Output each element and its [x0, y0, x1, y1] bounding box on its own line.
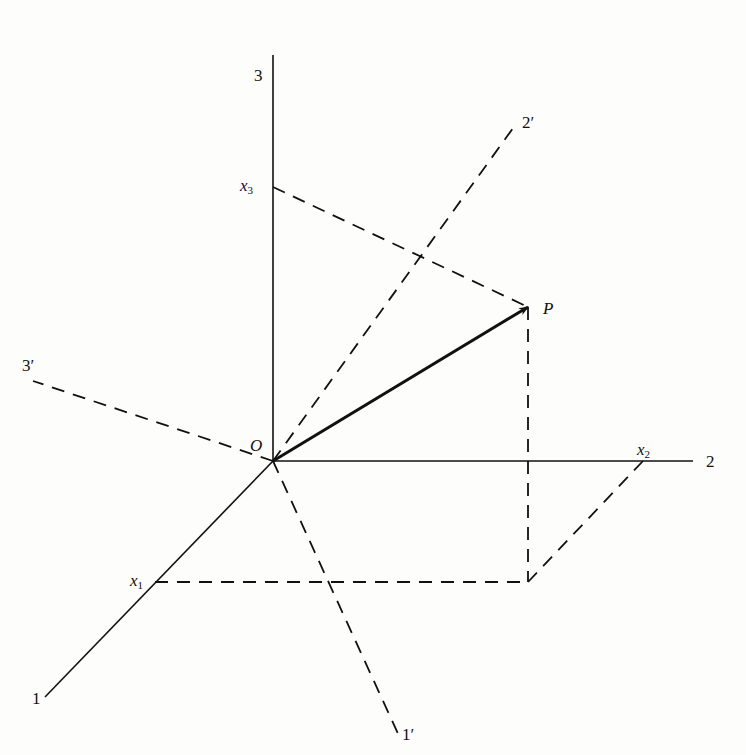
- x3-to-P: [273, 187, 528, 307]
- axis-1-label: 1: [32, 690, 41, 707]
- axis-1: [45, 461, 273, 697]
- x1-label: x1: [130, 572, 143, 591]
- axis-3-label: 3: [254, 67, 263, 84]
- axis-1-prime: [273, 461, 400, 738]
- vector-OP-arrow: [273, 307, 528, 461]
- point-P-label: P: [543, 300, 553, 317]
- coordinate-rotation-diagram: [0, 0, 746, 755]
- axis-2-prime-label: 2′: [522, 114, 534, 131]
- x2-subscript: 2: [645, 448, 651, 460]
- axis-3-prime-label: 3′: [22, 357, 34, 374]
- rotated-axes: [33, 124, 516, 738]
- x1-var: x: [130, 571, 138, 590]
- x3-var: x: [240, 176, 248, 195]
- axis-1-prime-label: 1′: [402, 726, 414, 743]
- original-axes: [45, 55, 693, 697]
- position-vector-OP: [273, 307, 528, 461]
- origin-label: O: [250, 437, 262, 454]
- x2-label: x2: [637, 441, 650, 460]
- axis-2-prime: [273, 124, 516, 461]
- axis-2-label: 2: [706, 453, 715, 470]
- x2-var: x: [637, 440, 645, 459]
- x3-label: x3: [240, 177, 253, 196]
- axis-3-prime: [33, 381, 273, 461]
- x3-subscript: 3: [248, 184, 254, 196]
- x1-subscript: 1: [138, 579, 144, 591]
- x2-to-base: [528, 461, 643, 582]
